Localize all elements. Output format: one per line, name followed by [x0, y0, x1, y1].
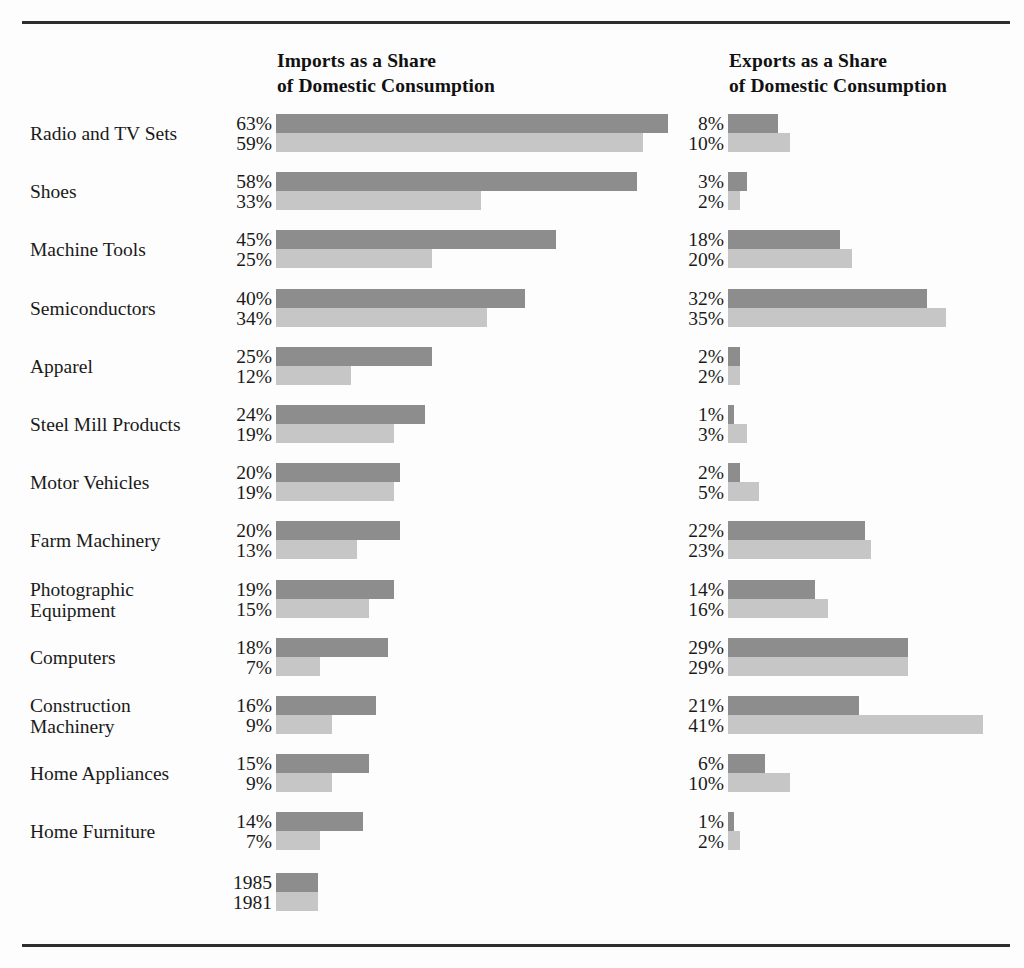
exports-value-1985: 21%	[622, 696, 724, 716]
exports-bar-1981	[728, 482, 759, 501]
imports-value-1985: 25%	[170, 347, 272, 367]
exports-value-1981: 2%	[622, 832, 724, 852]
imports-value-1985: 45%	[170, 230, 272, 250]
imports-bar-1985	[276, 230, 556, 249]
exports-bar-1985	[728, 812, 734, 831]
table-row: Farm Machinery20%13%22%23%	[0, 521, 1024, 561]
imports-value-1985: 24%	[170, 405, 272, 425]
exports-bar-1981	[728, 599, 828, 618]
exports-bar-1981	[728, 191, 740, 210]
table-row: Motor Vehicles20%19%2%5%	[0, 463, 1024, 503]
exports-bar-1985	[728, 463, 740, 482]
table-row: Construction Machinery16%9%21%41%	[0, 696, 1024, 736]
exports-value-1985: 22%	[622, 521, 724, 541]
exports-value-1985: 6%	[622, 754, 724, 774]
imports-value-1981: 15%	[170, 600, 272, 620]
exports-bar-1985	[728, 172, 747, 191]
imports-value-1981: 12%	[170, 367, 272, 387]
imports-value-1981: 9%	[170, 774, 272, 794]
exports-value-1981: 2%	[622, 367, 724, 387]
exports-value-1981: 41%	[622, 716, 724, 736]
exports-value-1981: 29%	[622, 658, 724, 678]
imports-bar-1981	[276, 133, 643, 152]
exports-bar-1985	[728, 347, 740, 366]
imports-bar-1985	[276, 405, 425, 424]
imports-value-1981: 25%	[170, 250, 272, 270]
exports-value-1981: 5%	[622, 483, 724, 503]
exports-bar-1985	[728, 754, 765, 773]
exports-value-1981: 35%	[622, 309, 724, 329]
imports-value-1981: 9%	[170, 716, 272, 736]
exports-value-1985: 14%	[622, 580, 724, 600]
exports-value-1985: 18%	[622, 230, 724, 250]
table-row: Radio and TV Sets63%59%8%10%	[0, 114, 1024, 154]
imports-value-1985: 58%	[170, 172, 272, 192]
imports-bar-1981	[276, 715, 332, 734]
imports-value-1981: 7%	[170, 832, 272, 852]
exports-value-1985: 2%	[622, 347, 724, 367]
exports-bar-1981	[728, 657, 908, 676]
exports-bar-1985	[728, 114, 778, 133]
exports-value-1981: 23%	[622, 541, 724, 561]
table-row: Machine Tools45%25%18%20%	[0, 230, 1024, 270]
exports-bar-1985	[728, 580, 815, 599]
imports-bar-1981	[276, 366, 351, 385]
imports-bar-1981	[276, 599, 369, 618]
imports-bar-1981	[276, 773, 332, 792]
exports-value-1985: 3%	[622, 172, 724, 192]
imports-bar-1985	[276, 521, 400, 540]
imports-bar-1985	[276, 754, 369, 773]
exports-value-1981: 2%	[622, 192, 724, 212]
imports-bar-1981	[276, 482, 394, 501]
imports-bar-1985	[276, 812, 363, 831]
imports-value-1985: 18%	[170, 638, 272, 658]
table-row: Apparel25%12%2%2%	[0, 347, 1024, 387]
exports-value-1981: 3%	[622, 425, 724, 445]
legend-label-1985: 1985	[170, 873, 272, 893]
imports-bar-1985	[276, 289, 525, 308]
exports-value-1981: 10%	[622, 774, 724, 794]
imports-value-1981: 59%	[170, 134, 272, 154]
table-row: Home Appliances15%9%6%10%	[0, 754, 1024, 794]
chart-rows: Radio and TV Sets63%59%8%10%Shoes58%33%3…	[0, 0, 1024, 968]
imports-value-1981: 34%	[170, 309, 272, 329]
table-row: Home Furniture14%7%1%2%	[0, 812, 1024, 852]
exports-bar-1985	[728, 521, 865, 540]
exports-value-1981: 16%	[622, 600, 724, 620]
imports-bar-1985	[276, 580, 394, 599]
imports-value-1985: 40%	[170, 289, 272, 309]
exports-bar-1985	[728, 696, 859, 715]
exports-bar-1981	[728, 773, 790, 792]
table-row: Steel Mill Products24%19%1%3%	[0, 405, 1024, 445]
exports-value-1985: 8%	[622, 114, 724, 134]
imports-bar-1985	[276, 347, 432, 366]
imports-value-1981: 7%	[170, 658, 272, 678]
imports-bar-1981	[276, 831, 320, 850]
imports-value-1985: 15%	[170, 754, 272, 774]
imports-value-1981: 19%	[170, 425, 272, 445]
imports-bar-1981	[276, 308, 487, 327]
exports-bar-1981	[728, 540, 871, 559]
table-row: Photographic Equipment19%15%14%16%	[0, 580, 1024, 620]
exports-value-1985: 1%	[622, 812, 724, 832]
imports-value-1985: 16%	[170, 696, 272, 716]
legend-label-1981: 1981	[170, 893, 272, 913]
exports-bar-1981	[728, 831, 740, 850]
table-row: Semiconductors40%34%32%35%	[0, 289, 1024, 329]
imports-bar-1985	[276, 696, 376, 715]
imports-bar-1985	[276, 463, 400, 482]
exports-bar-1985	[728, 289, 927, 308]
legend-swatch-1985	[276, 873, 318, 892]
imports-value-1985: 20%	[170, 521, 272, 541]
imports-bar-1981	[276, 540, 357, 559]
imports-bar-1981	[276, 249, 432, 268]
exports-bar-1981	[728, 308, 946, 327]
imports-value-1981: 19%	[170, 483, 272, 503]
exports-value-1985: 29%	[622, 638, 724, 658]
exports-bar-1981	[728, 133, 790, 152]
exports-value-1985: 1%	[622, 405, 724, 425]
exports-value-1985: 32%	[622, 289, 724, 309]
exports-value-1981: 10%	[622, 134, 724, 154]
table-row: Computers18%7%29%29%	[0, 638, 1024, 678]
exports-bar-1981	[728, 249, 852, 268]
